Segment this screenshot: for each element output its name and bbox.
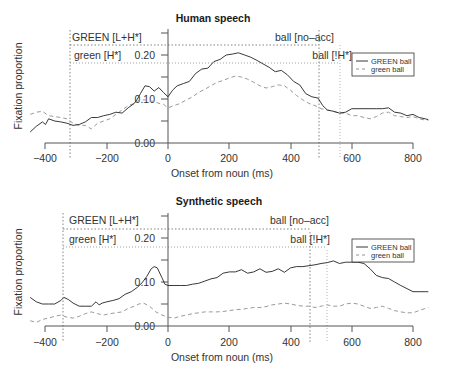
chart-title: Synthetic speech	[176, 195, 262, 207]
xtick-label: 200	[220, 336, 238, 348]
annot-green-h: green [H*]	[74, 49, 121, 61]
annot-ball-noacc: ball [no–acc]	[270, 214, 329, 226]
annot-green-lh: GREEN [L+H*]	[72, 31, 142, 43]
xtick-label: 800	[404, 336, 422, 348]
y-ticks	[161, 33, 168, 121]
ytick-label: 0.20	[135, 49, 156, 61]
x-axis-label: Onset from noun (ms)	[171, 167, 273, 179]
legend-label-dashed: green ball	[371, 65, 404, 74]
y-axis-label: Fixation proportion	[12, 228, 24, 315]
legend-label-dashed: green ball	[371, 251, 404, 260]
series-GREEN-ball	[30, 261, 428, 306]
annot-ball-noacc: ball [no–acc]	[275, 31, 334, 43]
chart-human-speech: Human speech Fixation proportion GREEN […	[12, 12, 428, 179]
chart-synthetic-speech: Synthetic speech Fixation proportion GRE…	[12, 195, 428, 363]
x-ticks	[45, 143, 413, 149]
legend: GREEN ball green ball	[352, 53, 414, 76]
xtick-label: 200	[220, 152, 238, 164]
xtick-label: 800	[404, 152, 422, 164]
xtick-label: 400	[282, 336, 300, 348]
ytick-label: 0.10	[135, 276, 156, 288]
legend: GREEN ball green ball	[352, 239, 414, 262]
xtick-label: −400	[33, 336, 57, 348]
y-axis-label: Fixation proportion	[12, 42, 24, 129]
xtick-label: −200	[95, 336, 119, 348]
xtick-label: 600	[343, 336, 361, 348]
annot-ball-h: ball [!H*]	[312, 49, 352, 61]
xtick-label: −200	[95, 152, 119, 164]
annot-green-lh: GREEN [L+H*]	[69, 214, 139, 226]
figure: Human speech Fixation proportion GREEN […	[0, 0, 463, 378]
x-axis-label: Onset from noun (ms)	[171, 351, 273, 363]
xtick-label: 0	[165, 152, 171, 164]
xtick-label: 400	[282, 152, 300, 164]
xtick-label: 0	[165, 336, 171, 348]
chart-title: Human speech	[176, 12, 251, 24]
xtick-label: 600	[343, 152, 361, 164]
xtick-label: −400	[33, 152, 57, 164]
annot-green-h: green [H*]	[69, 233, 116, 245]
series-green-ball	[30, 76, 428, 129]
annot-ball-h: ball [!H*]	[290, 233, 330, 245]
x-ticks	[45, 326, 413, 332]
ytick-label: 0.20	[135, 232, 156, 244]
